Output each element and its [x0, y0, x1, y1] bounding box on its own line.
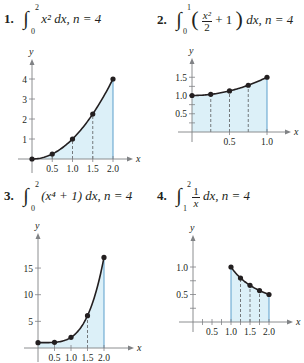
y-tick-label: 4	[22, 75, 27, 85]
data-point	[29, 156, 34, 161]
y-axis-arrow-icon	[190, 58, 195, 64]
data-point	[227, 88, 232, 93]
x-tick-label: 1.5	[82, 353, 94, 363]
x-tick-label: 1.0	[225, 327, 237, 337]
data-point	[52, 340, 57, 345]
chart-2-half-x-squared-plus-one: xy0.51.00.51.01.5	[175, 45, 299, 147]
n-label: n = 4	[222, 188, 250, 203]
y-tick-label: 15	[24, 264, 34, 274]
integrand: x² dx,	[41, 11, 69, 26]
y-tick-label: 0.5	[176, 290, 188, 300]
x-tick-label: 0.5	[224, 137, 236, 147]
integral-sign: ∫	[176, 8, 181, 30]
fraction-numerator: x²	[202, 10, 212, 22]
x-axis-arrow-icon	[285, 130, 291, 135]
dx: dx,	[246, 12, 262, 27]
x-tick-label: 0.5	[49, 353, 61, 363]
data-point	[50, 151, 55, 156]
close-paren: )	[236, 6, 243, 31]
integral-sign: ∫	[176, 184, 181, 206]
fraction: 1 x	[192, 186, 200, 209]
x-axis-label: x	[293, 126, 299, 137]
data-point	[257, 288, 262, 293]
y-tick-label: 2	[22, 115, 27, 125]
data-point	[264, 75, 269, 80]
problem-3-label: 3. ∫ 2 0 (x⁴ + 1) dx, n = 4	[4, 183, 132, 203]
x-tick-label: 1.5	[87, 164, 99, 174]
x-axis-label: x	[295, 316, 301, 327]
y-tick-label: 1.5	[175, 73, 187, 83]
figure-canvas: xy0.51.01.52.01234 xy0.51.00.51.01.5 xy0…	[0, 0, 304, 363]
y-tick-label: 0.5	[175, 109, 187, 119]
data-point	[246, 83, 251, 88]
upper-limit: 2	[35, 181, 39, 189]
y-tick-label: 1.0	[175, 91, 187, 101]
data-point	[266, 292, 271, 297]
fraction-denominator: x	[192, 198, 200, 209]
n-label: n = 4	[104, 188, 132, 203]
x-tick-label: 0.5	[46, 164, 58, 174]
data-point	[90, 111, 95, 116]
y-tick-label: 5	[28, 317, 33, 327]
lower-limit: 0	[31, 205, 35, 213]
dx: dx,	[203, 188, 219, 203]
problem-number: 1.	[4, 11, 14, 26]
upper-limit: 2	[187, 181, 191, 189]
n-label: n = 4	[73, 11, 101, 26]
x-axis-label: x	[135, 153, 141, 164]
x-axis-arrow-icon	[287, 320, 293, 325]
y-axis-label: y	[34, 220, 40, 231]
problem-number: 4.	[157, 188, 167, 203]
problem-number: 3.	[4, 188, 14, 203]
data-point	[110, 76, 115, 81]
y-axis-arrow-icon	[36, 233, 41, 239]
y-tick-label: 3	[22, 95, 27, 105]
x-axis-arrow-icon	[127, 157, 133, 162]
plus-one: + 1	[215, 12, 232, 27]
fraction: x² 2	[202, 10, 212, 33]
x-tick-label: 0.5	[206, 327, 218, 337]
chart-4-reciprocal-x: xy0.51.01.52.00.51.0	[176, 222, 301, 337]
chart-3-x-fourth-plus-one: xy0.51.01.52.051015	[24, 220, 143, 363]
x-tick-label: 2.0	[263, 327, 275, 337]
chart-1-x-squared: xy0.51.01.52.01234	[18, 46, 141, 174]
data-point	[101, 255, 106, 260]
data-point	[35, 340, 40, 345]
fraction-numerator: 1	[192, 186, 200, 198]
integrand: (x⁴ + 1) dx,	[41, 188, 101, 203]
lower-limit: 1	[183, 205, 187, 213]
y-tick-label: 1.0	[176, 263, 188, 273]
y-axis-label: y	[188, 45, 194, 56]
y-axis-label: y	[189, 222, 195, 233]
y-axis-arrow-icon	[30, 59, 35, 65]
problem-4-label: 4. ∫ 2 1 1 x dx, n = 4	[157, 183, 250, 209]
x-tick-label: 2.0	[107, 164, 119, 174]
y-axis-label: y	[28, 46, 34, 57]
data-point	[228, 264, 233, 269]
lower-limit: 0	[183, 28, 187, 36]
upper-limit: 2	[35, 4, 39, 12]
problem-2-label: 2. ∫ 1 0 ( x² 2 + 1 ) dx, n = 4	[157, 6, 293, 33]
n-label: n = 4	[265, 12, 293, 27]
data-point	[70, 136, 75, 141]
x-axis-arrow-icon	[128, 346, 134, 351]
problem-1-label: 1. ∫ 2 0 x² dx, n = 4	[4, 6, 101, 26]
data-point	[238, 275, 243, 280]
data-point	[85, 313, 90, 318]
integral-sign: ∫	[23, 184, 28, 206]
y-tick-label: 10	[24, 290, 34, 300]
data-point	[68, 335, 73, 340]
integral-sign: ∫	[23, 7, 28, 29]
data-point	[189, 93, 194, 98]
y-axis-arrow-icon	[191, 235, 196, 241]
open-paren: (	[191, 6, 198, 31]
x-tick-label: 2.0	[98, 353, 110, 363]
data-point	[247, 283, 252, 288]
x-tick-label: 1.0	[261, 137, 273, 147]
x-tick-label: 1.0	[65, 353, 77, 363]
x-axis-label: x	[136, 342, 142, 353]
problem-number: 2.	[157, 12, 167, 27]
fraction-denominator: 2	[202, 22, 212, 33]
x-tick-label: 1.5	[244, 327, 256, 337]
y-tick-label: 1	[22, 135, 27, 145]
